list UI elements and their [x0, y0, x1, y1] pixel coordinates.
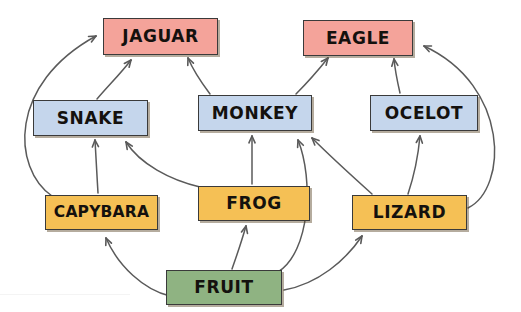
- node-label-lizard: LIZARD: [373, 204, 446, 221]
- arrow-fruit-to-frog: [232, 226, 247, 269]
- node-ocelot[interactable]: OCELOT: [370, 95, 478, 131]
- arrow-fruit-to-capybara: [106, 238, 170, 296]
- node-label-monkey: MONKEY: [212, 105, 298, 122]
- bottom-divider: [0, 294, 130, 295]
- food-web-diagram: JAGUAREAGLESNAKEMONKEYOCELOTCAPYBARAFROG…: [0, 0, 521, 312]
- node-label-jaguar: JAGUAR: [122, 28, 199, 45]
- node-label-snake: SNAKE: [57, 110, 124, 127]
- arrow-frog-to-monkey: [249, 136, 255, 184]
- node-eagle[interactable]: EAGLE: [303, 20, 413, 56]
- arrow-lizard-to-ocelot: [408, 136, 422, 194]
- node-label-fruit: FRUIT: [194, 279, 253, 296]
- arrow-lizard-to-monkey: [312, 138, 372, 194]
- node-label-eagle: EAGLE: [326, 30, 390, 47]
- node-jaguar[interactable]: JAGUAR: [103, 18, 218, 55]
- node-capybara[interactable]: CAPYBARA: [45, 195, 158, 230]
- node-lizard[interactable]: LIZARD: [352, 195, 467, 230]
- arrow-snake-to-jaguar: [97, 60, 131, 99]
- arrow-ocelot-to-eagle: [392, 59, 400, 93]
- node-label-ocelot: OCELOT: [385, 105, 463, 122]
- arrow-frog-to-snake: [126, 142, 200, 187]
- node-label-frog: FROG: [226, 195, 282, 212]
- node-snake[interactable]: SNAKE: [33, 100, 148, 136]
- arrow-monkey-to-jaguar: [188, 58, 210, 94]
- node-frog[interactable]: FROG: [198, 186, 310, 221]
- arrow-capybara-to-snake: [92, 140, 98, 193]
- arrow-layer: [0, 0, 521, 312]
- node-label-capybara: CAPYBARA: [54, 205, 149, 221]
- arrow-fruit-to-lizard: [284, 236, 362, 290]
- node-monkey[interactable]: MONKEY: [198, 95, 312, 131]
- arrow-monkey-to-eagle: [296, 58, 328, 94]
- node-fruit[interactable]: FRUIT: [166, 270, 282, 305]
